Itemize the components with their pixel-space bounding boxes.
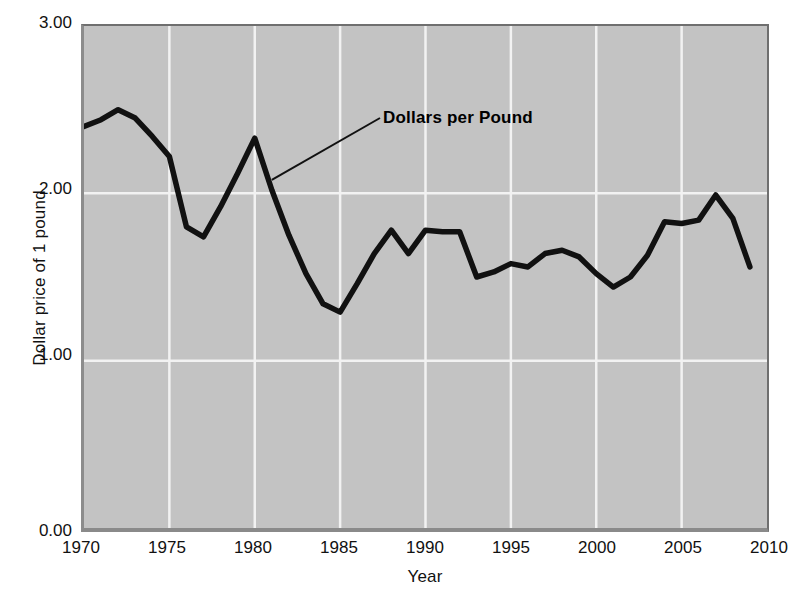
y-axis-tick-labels: 3.00 2.00 1.00 0.00 bbox=[8, 0, 72, 599]
x-tick-1970: 1970 bbox=[46, 538, 116, 558]
series-line bbox=[84, 110, 750, 312]
x-tick-1990: 1990 bbox=[390, 538, 460, 558]
gridlines bbox=[84, 26, 767, 528]
y-tick-2: 2.00 bbox=[8, 179, 72, 199]
annotation-leader-line bbox=[272, 118, 380, 180]
x-tick-1985: 1985 bbox=[304, 538, 374, 558]
y-tick-1: 1.00 bbox=[8, 345, 72, 365]
x-tick-1995: 1995 bbox=[476, 538, 546, 558]
plot-svg bbox=[84, 26, 767, 528]
data-series-group bbox=[84, 110, 750, 312]
plot-area bbox=[81, 24, 769, 532]
series-annotation-label: Dollars per Pound bbox=[383, 108, 533, 128]
y-tick-3: 3.00 bbox=[8, 13, 72, 33]
x-tick-2000: 2000 bbox=[562, 538, 632, 558]
chart-figure: Dollar price of 1 pound 3.00 2.00 1.00 0… bbox=[0, 0, 791, 599]
x-tick-1980: 1980 bbox=[218, 538, 288, 558]
x-tick-2010: 2010 bbox=[734, 538, 791, 558]
x-axis-title: Year bbox=[81, 567, 769, 587]
x-tick-1975: 1975 bbox=[132, 538, 202, 558]
x-tick-2005: 2005 bbox=[648, 538, 718, 558]
